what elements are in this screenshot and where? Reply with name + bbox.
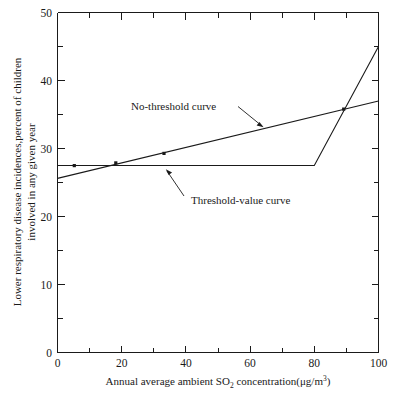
- y-axis-right-ticks: [372, 47, 379, 353]
- x-tick-label: 80: [309, 357, 321, 369]
- data-point: [162, 152, 165, 155]
- x-tick-label: 100: [370, 357, 388, 369]
- annotation-no-threshold-leader: [238, 107, 262, 127]
- y-tick-label: 40: [41, 75, 53, 87]
- y-tick-labels: 0 10 20 30 40 50: [41, 7, 53, 359]
- x-tick-label: 0: [55, 357, 61, 369]
- y-tick-label: 30: [41, 143, 53, 155]
- x-axis-title-prefix: Annual average ambient SO: [106, 375, 230, 387]
- series-no-threshold-curve: [58, 101, 379, 178]
- chart-figure: 0 10 20 30 40 50 0 20 40 60 80 100: [0, 0, 401, 395]
- data-point: [114, 161, 117, 164]
- chart-canvas: 0 10 20 30 40 50 0 20 40 60 80 100: [0, 0, 401, 395]
- x-axis-top-ticks: [90, 13, 347, 20]
- y-axis-title-line1: Lower respiratory disease incidences,per…: [11, 57, 23, 306]
- data-point: [73, 164, 76, 167]
- y-axis-title-line2: involved in any given year: [25, 123, 37, 241]
- annotation-threshold-value: Threshold-value curve: [166, 169, 291, 206]
- y-axis-title: Lower respiratory disease incidences,per…: [11, 57, 37, 306]
- annotation-no-threshold-label: No-threshold curve: [131, 100, 216, 112]
- x-tick-label: 60: [244, 357, 256, 369]
- y-tick-label: 0: [46, 347, 52, 359]
- y-tick-label: 10: [41, 279, 53, 291]
- x-tick-label: 40: [180, 357, 192, 369]
- annotation-threshold-value-arrow: [166, 169, 172, 175]
- x-tick-labels: 0 20 40 60 80 100: [55, 357, 388, 369]
- annotation-threshold-value-leader: [167, 171, 184, 196]
- annotation-threshold-value-label: Threshold-value curve: [191, 194, 290, 206]
- series-threshold-value-curve: [58, 47, 379, 166]
- x-axis-title-mid: concentration(μg/m: [234, 375, 324, 388]
- y-tick-label: 20: [41, 211, 53, 223]
- x-axis-title: Annual average ambient SO2 concentration…: [106, 374, 331, 390]
- axis-frame: [58, 13, 379, 353]
- y-axis-minor-ticks: [58, 47, 63, 319]
- x-tick-label: 20: [116, 357, 128, 369]
- annotation-no-threshold: No-threshold curve: [131, 100, 264, 127]
- x-axis-title-suffix: ): [327, 375, 331, 388]
- x-axis-minor-ticks: [90, 348, 347, 353]
- data-point: [342, 108, 345, 111]
- y-tick-label: 50: [41, 7, 53, 19]
- data-point-group: [73, 108, 346, 168]
